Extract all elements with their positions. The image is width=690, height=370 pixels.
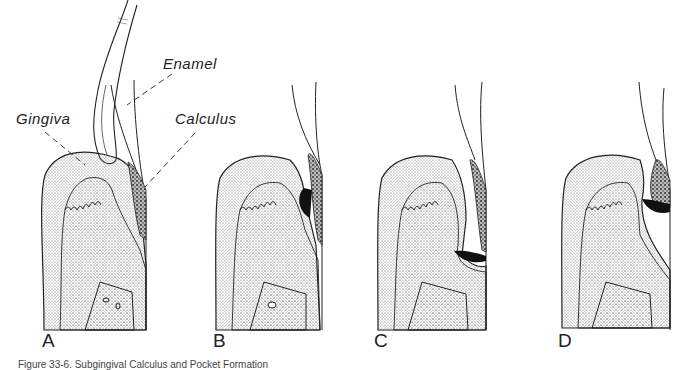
gingiva-label: Gingiva [16, 110, 70, 127]
calculus-label: Calculus [175, 110, 237, 127]
panel-c-drawing [378, 82, 486, 330]
instrument-icon [94, 0, 137, 164]
panel-d-letter: D [558, 330, 572, 352]
panel-d-drawing [562, 82, 670, 330]
panel-c-letter: C [374, 330, 388, 352]
figure-caption: Figure 33-6. Subgingival Calculus and Po… [18, 359, 268, 370]
enamel-label: Enamel [163, 55, 217, 72]
panel-a-letter: A [42, 330, 55, 352]
panel-b-letter: B [213, 330, 226, 352]
panel-a-drawing [42, 0, 195, 330]
